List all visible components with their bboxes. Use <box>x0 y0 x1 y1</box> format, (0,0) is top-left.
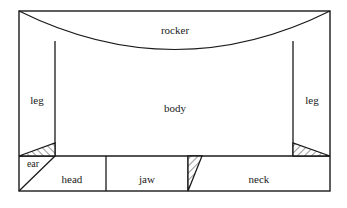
label-jaw: jaw <box>138 173 155 185</box>
rocker-diagram: rocker body leg leg ear head jaw neck <box>0 0 347 208</box>
label-head: head <box>62 173 83 185</box>
label-ear: ear <box>27 158 40 169</box>
label-leg-right: leg <box>305 94 319 106</box>
label-rocker: rocker <box>161 24 189 36</box>
label-body: body <box>164 102 187 114</box>
label-leg-left: leg <box>30 94 44 106</box>
label-neck: neck <box>249 173 270 185</box>
diagram-root: rocker body leg leg ear head jaw neck <box>0 0 347 208</box>
